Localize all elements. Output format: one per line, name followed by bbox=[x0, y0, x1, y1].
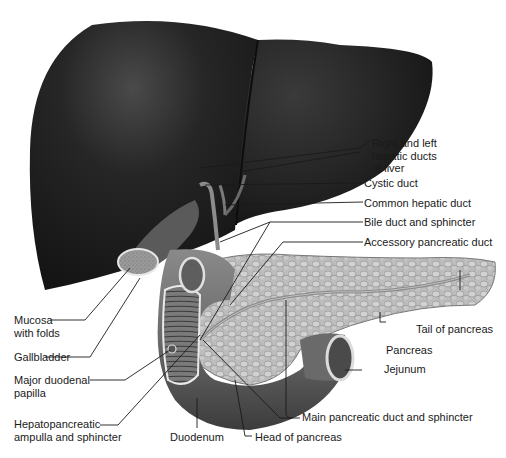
label-main-pancreatic-duct: Main pancreatic duct and sphincter bbox=[302, 411, 473, 424]
label-right-left-hepatic-ducts: Right and left hepatic ducts of liver bbox=[372, 137, 437, 175]
label-bile-duct: Bile duct and sphincter bbox=[364, 216, 475, 229]
label-mucosa: Mucosa with folds bbox=[14, 314, 60, 339]
mucosa-opening bbox=[118, 249, 158, 275]
label-major-duodenal-papilla: Major duodenal papilla bbox=[14, 374, 90, 399]
label-duodenum: Duodenum bbox=[170, 431, 224, 444]
label-cystic-duct: Cystic duct bbox=[364, 177, 418, 190]
label-common-hepatic-duct: Common hepatic duct bbox=[364, 197, 471, 210]
label-pancreas: Pancreas bbox=[386, 344, 432, 357]
label-hepatopancreatic-ampulla: Hepatopancreatic ampulla and sphincter bbox=[14, 418, 122, 443]
label-gallbladder: Gallbladder bbox=[14, 351, 70, 364]
label-jejunum: Jejunum bbox=[384, 363, 426, 376]
anatomy-diagram: Right and left hepatic ducts of liver Cy… bbox=[0, 0, 506, 458]
label-tail-of-pancreas: Tail of pancreas bbox=[416, 323, 493, 336]
papilla bbox=[168, 345, 176, 353]
label-head-of-pancreas: Head of pancreas bbox=[255, 431, 342, 444]
label-accessory-pancreatic-duct: Accessory pancreatic duct bbox=[364, 236, 492, 249]
